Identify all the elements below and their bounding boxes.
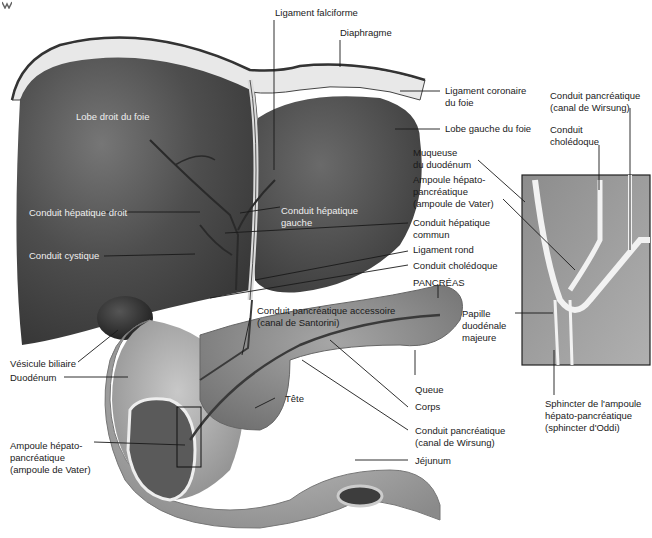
label-inset-conduit-choledoque: Conduit cholédoque bbox=[550, 124, 599, 148]
label-lobe-droit: Lobe droit du foie bbox=[76, 111, 149, 123]
label-corps: Corps bbox=[415, 401, 440, 413]
label-conduit-hepatique-droit: Conduit hépatique droit bbox=[29, 207, 127, 219]
anatomy-figure: Ligament falciforme Diaphragme Ligament … bbox=[0, 0, 652, 538]
label-ligament-rond: Ligament rond bbox=[413, 244, 474, 256]
label-queue: Queue bbox=[415, 384, 444, 396]
label-conduit-hepatique-commun: Conduit hépatique commun bbox=[413, 217, 490, 241]
label-duodenum: Duodénum bbox=[10, 372, 56, 384]
anatomy-illustration bbox=[0, 0, 652, 538]
label-muqueuse-duodenum: Muqueuse du duodénum bbox=[413, 147, 471, 171]
label-tete: Tête bbox=[285, 393, 304, 405]
label-vesicule-biliaire: Vésicule biliaire bbox=[10, 358, 76, 370]
label-jejunum: Jéjunum bbox=[415, 455, 451, 467]
label-diaphragme: Diaphragme bbox=[340, 27, 392, 39]
label-ligament-coronaire: Ligament coronaire du foie bbox=[445, 85, 526, 109]
label-conduit-hepatique-gauche: Conduit hépatique gauche bbox=[281, 205, 358, 229]
label-conduit-choledoque: Conduit cholédoque bbox=[413, 260, 498, 272]
label-canal-santorini: Conduit pancréatique accessoire (canal d… bbox=[257, 305, 395, 329]
label-papille-duodenale: Papille duodénale majeure bbox=[462, 308, 506, 344]
label-inset-canal-wirsung: Conduit pancréatique (canal de Wirsung) bbox=[550, 90, 640, 114]
label-conduit-cystique: Conduit cystique bbox=[29, 250, 99, 262]
label-lobe-gauche: Lobe gauche du foie bbox=[445, 123, 531, 135]
label-sphincter-oddi: Sphincter de l'ampoule hépato-pancréatiq… bbox=[545, 398, 641, 434]
label-ampoule-vater: Ampoule hépato- pancréatique (ampoule de… bbox=[10, 440, 91, 476]
label-ampoule-vater-inset: Ampoule hépato- pancréatique (ampoule de… bbox=[413, 174, 494, 210]
label-canal-wirsung: Conduit pancréatique (canal de Wirsung) bbox=[415, 425, 505, 449]
label-ligament-falciforme: Ligament falciforme bbox=[275, 7, 358, 19]
label-pancreas: PANCRÉAS bbox=[413, 277, 465, 289]
